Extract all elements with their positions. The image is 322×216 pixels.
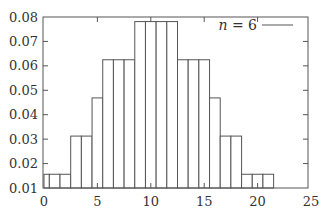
histogram-bar: [113, 60, 124, 188]
histogram-bar: [242, 174, 253, 188]
histogram-bar: [60, 174, 71, 188]
y-tick-label: 0.06: [9, 58, 38, 73]
y-tick-label: 0.05: [9, 83, 38, 98]
histogram-bar: [81, 136, 92, 188]
x-axis-tick-labels: 0510152025: [40, 194, 319, 209]
histogram-bar: [156, 22, 167, 188]
y-tick-label: 0.01: [9, 181, 38, 196]
x-tick-label: 15: [196, 194, 213, 209]
y-tick-label: 0.03: [9, 132, 38, 147]
x-tick-label: 0: [40, 194, 48, 209]
y-axis-tick-labels: 0.010.020.030.040.050.060.070.08: [9, 10, 38, 196]
histogram-bar: [44, 174, 49, 188]
histogram-bar: [92, 98, 103, 188]
histogram-bar: [49, 174, 60, 188]
histogram-bar: [103, 60, 114, 188]
histogram-bar: [199, 60, 210, 188]
histogram-bar: [71, 136, 82, 188]
histogram-bar: [124, 60, 135, 188]
x-tick-label: 20: [249, 194, 266, 209]
x-tick-label: 5: [93, 194, 101, 209]
x-tick-label: 25: [303, 194, 320, 209]
y-tick-label: 0.04: [9, 107, 38, 122]
y-tick-label: 0.02: [9, 156, 38, 171]
histogram-bar: [145, 22, 156, 188]
legend: n = 6: [218, 17, 293, 33]
histogram-bar: [135, 22, 146, 188]
histogram-bar: [220, 136, 231, 188]
histogram-bar: [263, 174, 274, 188]
histogram-chart: 0510152025 0.010.020.030.040.050.060.070…: [0, 0, 322, 216]
legend-label: n = 6: [218, 17, 257, 33]
bars-group: [44, 22, 274, 188]
histogram-bar: [167, 22, 178, 188]
x-tick-label: 10: [143, 194, 160, 209]
histogram-bar: [210, 98, 221, 188]
histogram-bar: [231, 136, 242, 188]
histogram-bar: [188, 60, 199, 188]
y-tick-label: 0.07: [9, 34, 38, 49]
y-tick-label: 0.08: [9, 10, 38, 25]
histogram-bar: [178, 60, 189, 188]
